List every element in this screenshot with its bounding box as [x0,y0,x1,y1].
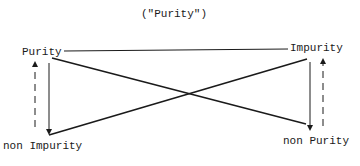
semiotic-square-lines [0,0,360,166]
contrary-line [64,49,288,51]
contradiction-line-2 [49,59,307,135]
contradiction-line-1 [52,58,306,124]
